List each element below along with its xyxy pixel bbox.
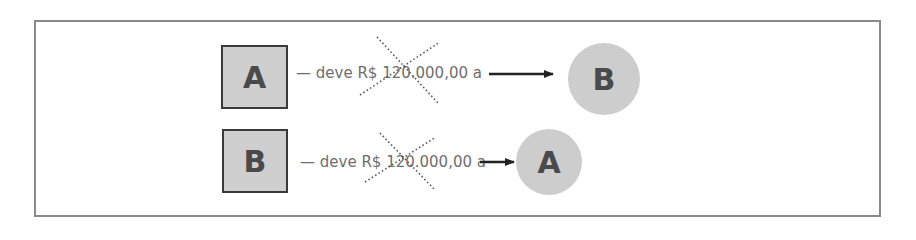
relation-label: — deve R$ 120.000,00 a [296, 64, 482, 82]
diagram-frame [34, 20, 881, 217]
node-label: B [593, 62, 616, 97]
node-b-square: B [222, 129, 288, 193]
node-a-circle: A [516, 129, 582, 195]
node-a-square: A [221, 45, 288, 109]
node-b-circle: B [568, 43, 640, 115]
node-label: A [537, 145, 560, 180]
node-label: A [243, 60, 266, 95]
relation-label: — deve R$ 120.000,00 a [300, 153, 486, 171]
node-label: B [244, 144, 267, 179]
